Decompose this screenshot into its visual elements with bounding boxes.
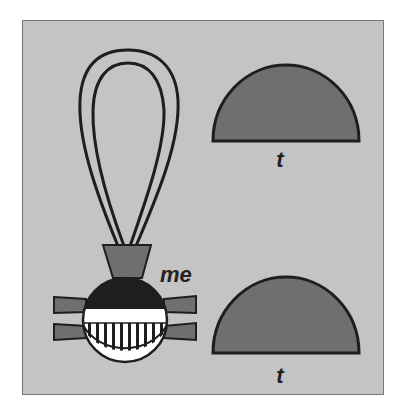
semicircle-lower-shape [213,277,359,353]
label-t-lower: t [276,363,285,388]
vessel-circle-icon [80,275,170,366]
vessel-neck-shape [103,245,151,278]
semicircle-upper-shape [213,65,359,141]
label-t-upper: t [276,147,285,172]
loop-icon [80,50,178,246]
label-me: me [160,262,192,287]
hieroglyph-diagram: me t t [0,0,406,420]
